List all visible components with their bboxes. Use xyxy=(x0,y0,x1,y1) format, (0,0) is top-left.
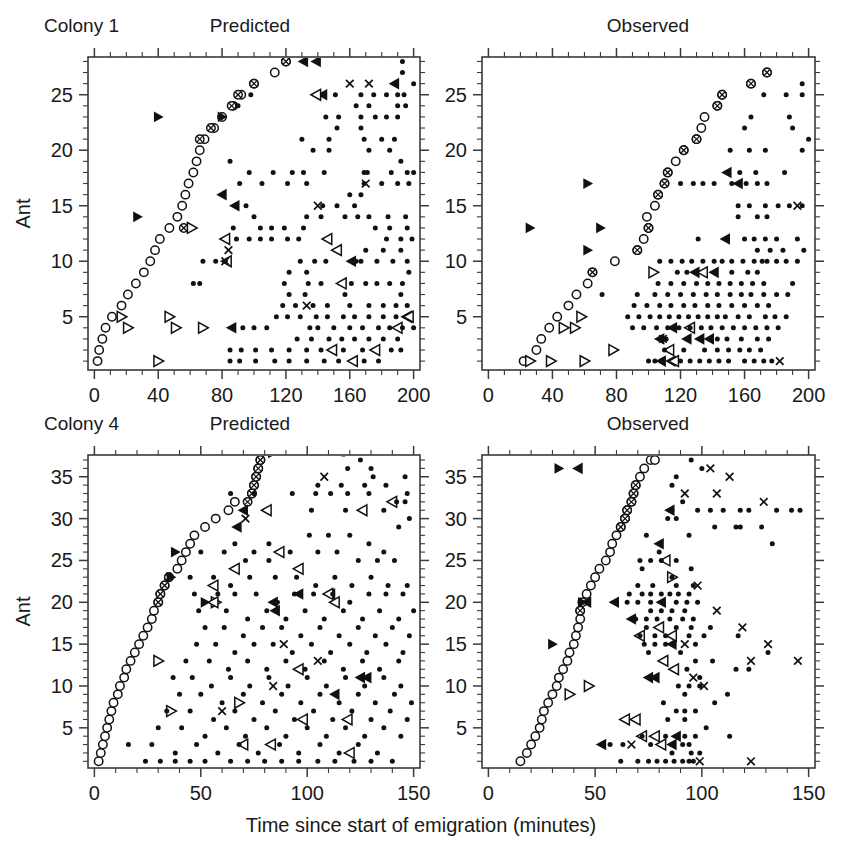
small-dot-marker xyxy=(407,633,412,638)
open-circle-marker xyxy=(271,68,279,76)
small-dot-marker xyxy=(335,203,340,208)
small-dot-marker xyxy=(311,591,316,596)
small-dot-marker xyxy=(252,550,257,555)
small-dot-marker xyxy=(405,303,410,308)
x-tick-label: 200 xyxy=(397,384,430,406)
small-dot-marker xyxy=(188,709,193,714)
panel-title: Observed xyxy=(607,413,689,434)
small-dot-marker xyxy=(712,700,717,705)
x-tick-label: 50 xyxy=(190,782,212,804)
small-dot-marker xyxy=(729,259,734,264)
y-tick-label: 35 xyxy=(445,466,467,488)
small-dot-marker xyxy=(387,325,392,330)
small-dot-marker xyxy=(271,170,276,175)
small-dot-marker xyxy=(761,292,766,297)
y-tick-label: 20 xyxy=(445,591,467,613)
small-dot-marker xyxy=(358,458,363,463)
small-dot-marker xyxy=(215,591,220,596)
small-dot-marker xyxy=(696,314,701,319)
small-dot-marker xyxy=(674,625,679,630)
small-dot-marker xyxy=(383,449,388,454)
small-dot-marker xyxy=(696,237,701,242)
small-dot-marker xyxy=(386,583,391,588)
panel-title: Predicted xyxy=(210,15,290,36)
small-dot-marker xyxy=(748,292,753,297)
small-dot-marker xyxy=(632,303,637,308)
small-dot-marker xyxy=(228,583,233,588)
filled-left-triangle-marker xyxy=(708,267,718,279)
small-dot-marker xyxy=(727,734,732,739)
small-dot-marker xyxy=(806,137,811,142)
y-tick-label: 25 xyxy=(445,549,467,571)
open-circle-marker xyxy=(572,290,580,298)
filled-right-triangle-marker xyxy=(154,112,164,123)
small-dot-marker xyxy=(652,292,657,297)
small-dot-marker xyxy=(742,126,747,131)
small-dot-marker xyxy=(282,225,287,230)
small-dot-marker xyxy=(358,259,363,264)
open-circle-marker xyxy=(97,749,105,757)
small-dot-marker xyxy=(740,259,745,264)
small-dot-marker xyxy=(708,625,713,630)
small-dot-marker xyxy=(356,692,361,697)
small-dot-marker xyxy=(652,633,657,638)
small-dot-marker xyxy=(266,541,271,546)
small-dot-marker xyxy=(355,214,360,219)
small-dot-marker xyxy=(392,558,397,563)
open-circle-marker xyxy=(224,506,232,514)
small-dot-marker xyxy=(243,734,248,739)
small-dot-marker xyxy=(702,633,707,638)
small-dot-marker xyxy=(678,292,683,297)
open-circle-marker xyxy=(165,224,173,232)
small-dot-marker xyxy=(298,314,303,319)
small-dot-marker xyxy=(282,281,287,286)
small-dot-marker xyxy=(657,259,662,264)
small-dot-marker xyxy=(687,759,692,764)
small-dot-marker xyxy=(331,325,336,330)
small-dot-marker xyxy=(354,103,359,108)
open-circle-marker xyxy=(151,246,159,254)
small-dot-marker xyxy=(347,600,352,605)
small-dot-marker xyxy=(232,709,237,714)
small-dot-marker xyxy=(728,148,733,153)
small-dot-marker xyxy=(296,750,301,755)
small-dot-marker xyxy=(343,508,348,513)
small-dot-marker xyxy=(192,591,197,596)
small-dot-marker xyxy=(680,499,685,504)
open-circle-marker xyxy=(611,257,619,265)
small-dot-marker xyxy=(761,359,766,364)
open-circle-marker xyxy=(636,473,644,481)
small-dot-marker xyxy=(633,617,638,622)
y-tick-label: 15 xyxy=(445,195,467,217)
small-dot-marker xyxy=(309,336,314,341)
small-dot-marker xyxy=(245,658,250,663)
small-dot-marker xyxy=(755,214,760,219)
small-dot-marker xyxy=(364,650,369,655)
small-dot-marker xyxy=(663,759,668,764)
series-dot xyxy=(600,81,812,363)
small-dot-marker xyxy=(394,303,399,308)
small-dot-marker xyxy=(228,348,233,353)
small-dot-marker xyxy=(646,650,651,655)
small-dot-marker xyxy=(795,237,800,242)
y-tick-label: 10 xyxy=(51,250,73,272)
small-dot-marker xyxy=(209,683,214,688)
open-circle-marker xyxy=(651,202,659,210)
open-left-triangle-marker xyxy=(298,714,308,725)
filled-left-triangle-marker xyxy=(226,322,236,334)
small-dot-marker xyxy=(398,248,403,253)
small-dot-marker xyxy=(755,181,760,186)
small-dot-marker xyxy=(407,516,412,521)
small-dot-marker xyxy=(640,591,645,596)
series-open_circle xyxy=(519,68,771,365)
open-left-triangle-marker xyxy=(229,563,239,574)
small-dot-marker xyxy=(400,591,405,596)
y-tick-label: 30 xyxy=(51,508,73,530)
small-dot-marker xyxy=(290,491,295,496)
open-right-triangle-marker xyxy=(117,311,127,322)
small-dot-marker xyxy=(681,281,686,286)
small-dot-marker xyxy=(699,325,704,330)
small-dot-marker xyxy=(406,270,411,275)
small-dot-marker xyxy=(341,667,346,672)
small-dot-marker xyxy=(752,359,757,364)
